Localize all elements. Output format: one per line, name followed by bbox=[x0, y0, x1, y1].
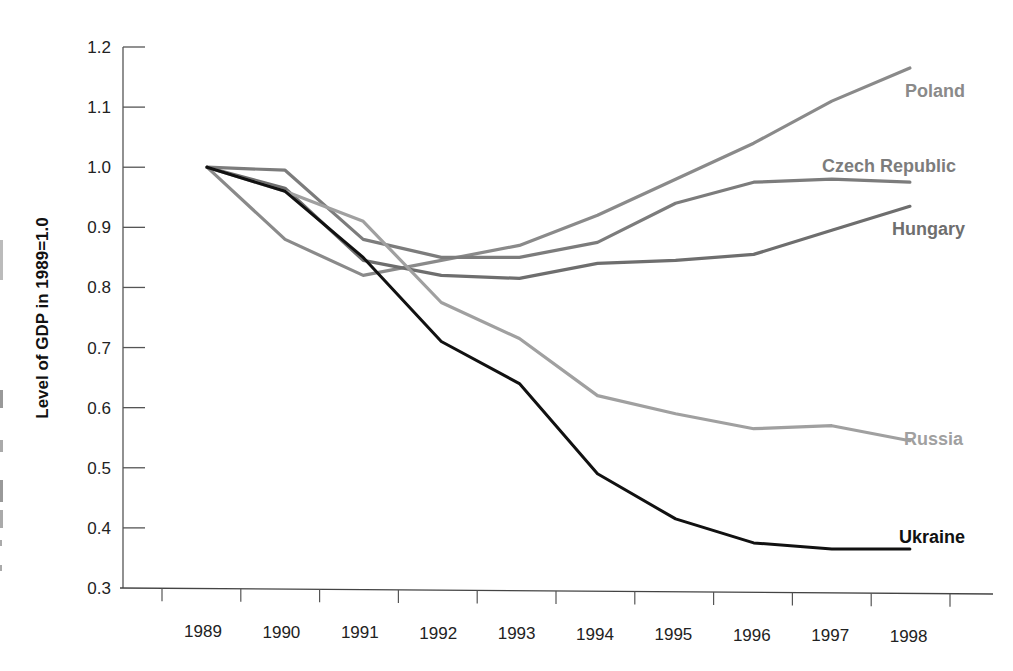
y-tick-label: 0.6 bbox=[87, 399, 111, 418]
y-tick-label: 0.9 bbox=[87, 218, 111, 237]
series-labels: Poland Czech Republic Hungary Russia Ukr… bbox=[822, 81, 965, 547]
y-tick-label: 1.2 bbox=[87, 38, 111, 57]
y-tick-label: 0.8 bbox=[87, 278, 111, 297]
x-tick-label: 1993 bbox=[498, 624, 536, 643]
y-axis-title: Level of GDP in 1989=1.0 bbox=[33, 217, 52, 418]
series-line-poland bbox=[207, 68, 910, 275]
series-label-czech-republic: Czech Republic bbox=[822, 156, 956, 176]
y-axis: 0.30.40.50.60.70.80.91.01.11.2 bbox=[87, 38, 145, 598]
page-edge-marks bbox=[0, 240, 8, 600]
series-line-ukraine bbox=[207, 167, 910, 549]
x-tick-label: 1994 bbox=[576, 625, 614, 644]
series-line-russia bbox=[207, 167, 910, 441]
x-tick-label: 1998 bbox=[890, 627, 928, 646]
series-lines bbox=[207, 68, 910, 549]
x-tick-label: 1991 bbox=[341, 623, 379, 642]
gdp-line-chart: 0.30.40.50.60.70.80.91.01.11.2 198919901… bbox=[0, 0, 1013, 671]
y-tick-label: 1.0 bbox=[87, 158, 111, 177]
series-label-russia: Russia bbox=[904, 429, 964, 449]
series-label-ukraine: Ukraine bbox=[899, 527, 965, 547]
series-label-poland: Poland bbox=[905, 81, 965, 101]
y-tick-label: 0.4 bbox=[87, 519, 111, 538]
x-tick-label: 1990 bbox=[262, 623, 300, 642]
y-tick-label: 0.5 bbox=[87, 459, 111, 478]
y-tick-label: 1.1 bbox=[87, 98, 111, 117]
x-tick-label: 1997 bbox=[811, 626, 849, 645]
x-tick-label: 1995 bbox=[654, 625, 692, 644]
series-label-hungary: Hungary bbox=[892, 219, 965, 239]
x-tick-label: 1989 bbox=[184, 622, 222, 641]
x-tick-label: 1996 bbox=[733, 626, 771, 645]
x-axis: 1989199019911992199319941995199619971998 bbox=[120, 588, 993, 646]
y-tick-label: 0.3 bbox=[87, 579, 111, 598]
x-tick-label: 1992 bbox=[419, 624, 457, 643]
series-line-hungary bbox=[207, 167, 910, 278]
y-tick-label: 0.7 bbox=[87, 339, 111, 358]
